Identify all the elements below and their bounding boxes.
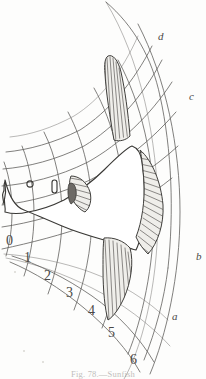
radial-tick-4: 4 [88,303,95,318]
arc-tick-d: d [158,30,164,42]
arc-tick-a: a [172,310,178,322]
arc-tick-b: b [196,250,202,262]
radial-tick-2: 2 [44,268,51,283]
radial-tick-1: 1 [24,250,31,265]
radial-tick-3: 3 [66,285,73,300]
radial-tick-6: 6 [130,352,137,367]
paper-speck [42,361,44,363]
arc-tick-c: c [189,90,194,102]
figure-root: 0 1 2 3 4 5 6 a b c d Fig. 78.—Sunfish [0,0,206,379]
radial-tick-5: 5 [108,325,115,340]
paper-speck [23,350,25,352]
transformation-grid-plate: 0 1 2 3 4 5 6 a b c d [0,0,206,379]
gill-slit [52,180,57,193]
sunfish [2,56,169,320]
paper-speck [14,271,16,273]
figure-caption: Fig. 78.—Sunfish [0,369,206,379]
arc-tick-labels: a b c d [158,30,202,322]
radial-tick-0: 0 [6,233,13,248]
